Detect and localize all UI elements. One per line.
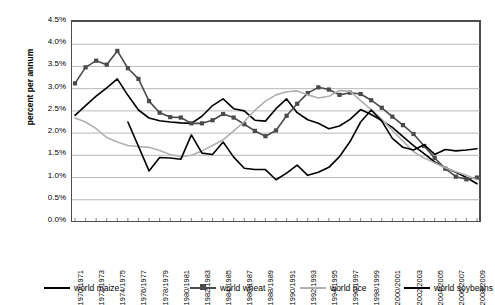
y-axis-tick-labels: 4.5%4.0%3.5%3.0%2.5%2.0%1.5%1.0%0.5%0.0% <box>26 0 66 240</box>
y-tick-label: 3.5% <box>28 60 66 68</box>
legend-line-swatch <box>44 283 70 293</box>
y-tick-label: 0.0% <box>28 216 66 224</box>
legend-label: world maize <box>74 283 119 293</box>
y-tick-label: 1.5% <box>28 149 66 157</box>
legend-item-world-rice[interactable]: world rice <box>300 283 366 293</box>
y-tick-label: 1.0% <box>28 172 66 180</box>
plot-svg <box>72 22 480 222</box>
legend-item-world-soybeans[interactable]: world soybeans <box>404 283 493 293</box>
legend-line-swatch <box>190 283 216 293</box>
legend-label: world soybeans <box>434 283 493 293</box>
y-tick-label: 3.0% <box>28 83 66 91</box>
legend-item-world-wheat[interactable]: world wheat <box>190 283 265 293</box>
legend-line-swatch <box>404 283 430 293</box>
y-tick-label: 0.5% <box>28 194 66 202</box>
series-world-soybeans <box>128 110 477 180</box>
legend-label: world rice <box>330 283 366 293</box>
x-axis-tick-labels: 1970/19711972/19731974/19751976/19771978… <box>71 226 483 272</box>
series-world-wheat <box>73 49 479 182</box>
legend-label: world wheat <box>220 283 265 293</box>
plot-area <box>71 20 481 222</box>
chart-legend: world maizeworld wheatworld riceworld so… <box>0 278 495 298</box>
y-tick-label: 4.0% <box>28 38 66 46</box>
y-tick-label: 2.5% <box>28 105 66 113</box>
y-tick-label: 2.0% <box>28 127 66 135</box>
series-world-rice <box>75 90 477 179</box>
legend-line-swatch <box>300 283 326 293</box>
x-tick-marks <box>75 218 477 222</box>
legend-item-world-maize[interactable]: world maize <box>44 283 119 293</box>
y-tick-label: 4.5% <box>28 16 66 24</box>
gridlines <box>72 44 480 200</box>
